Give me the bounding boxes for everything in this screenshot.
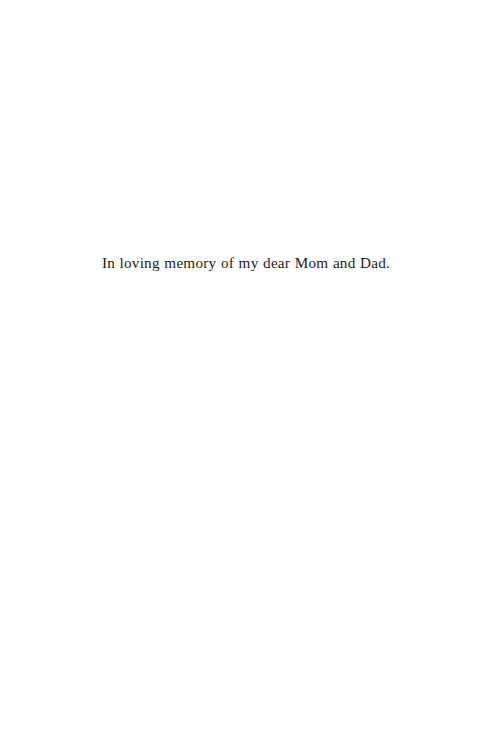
dedication-page: In loving memory of my dear Mom and Dad. <box>0 0 492 754</box>
dedication-block: In loving memory of my dear Mom and Dad. <box>0 252 492 274</box>
dedication-text: In loving memory of my dear Mom and Dad. <box>102 252 390 274</box>
